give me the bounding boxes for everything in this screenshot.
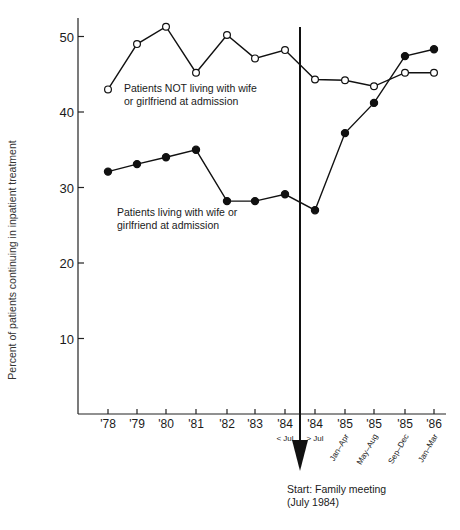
x-tick-sublabel: > Jul: [306, 434, 323, 443]
filled-circle-marker: [281, 191, 288, 198]
filled-circle-marker: [430, 46, 437, 53]
open-circle-marker: [134, 41, 141, 48]
filled-circle-marker: [401, 53, 408, 60]
open-circle-marker: [252, 55, 259, 62]
x-tick-label: '85: [337, 417, 353, 431]
x-tick-sublabel: Jan–Apr: [328, 432, 351, 463]
open-circle-marker: [163, 23, 170, 30]
annotation-not-living-with-partner: or girlfriend at admission: [124, 95, 239, 107]
open-circle-marker: [431, 69, 438, 76]
annotation-family-meeting: Start: Family meeting: [287, 483, 386, 495]
x-tick-sublabel: < Jul: [276, 434, 293, 443]
open-circle-marker: [342, 77, 349, 84]
open-circle-marker: [224, 32, 231, 39]
x-tick-label: '85: [366, 417, 382, 431]
series-living-with-partner: [104, 46, 437, 214]
annotation-not-living-with-partner: Patients NOT living with wife: [124, 82, 257, 94]
y-tick-label: 30: [60, 181, 74, 196]
x-tick-label: '80: [158, 417, 174, 431]
y-tick-label: 50: [60, 30, 74, 45]
open-circle-marker: [402, 69, 409, 76]
filled-circle-marker: [311, 207, 318, 214]
data-series: [104, 23, 437, 213]
x-tick-label: '86: [426, 417, 442, 431]
filled-circle-marker: [162, 154, 169, 161]
x-tick-label: '79: [129, 417, 145, 431]
filled-circle-marker: [104, 168, 111, 175]
open-circle-marker: [282, 47, 289, 54]
filled-circle-marker: [223, 198, 230, 205]
x-axis-ticks: '78'79'80'81'82'83'84< Jul'84> Jul'85Jan…: [100, 409, 442, 466]
filled-circle-marker: [192, 146, 199, 153]
filled-circle-marker: [251, 198, 258, 205]
x-tick-label: '82: [219, 417, 235, 431]
open-circle-marker: [371, 83, 378, 90]
y-tick-label: 10: [60, 332, 74, 347]
x-tick-sublabel: Sep–Dec: [386, 433, 410, 466]
annotation-family-meeting: (July 1984): [287, 496, 339, 508]
y-tick-label: 40: [60, 105, 74, 120]
open-circle-marker: [193, 69, 200, 76]
x-tick-label: '84: [277, 417, 293, 431]
y-axis-ticks: 1020304050: [60, 30, 84, 347]
x-tick-label: '85: [397, 417, 413, 431]
y-axis-label: Percent of patients continuing in inpati…: [6, 140, 18, 379]
x-tick-sublabel: May–Aug: [355, 433, 380, 467]
open-circle-marker: [105, 86, 112, 93]
family-meeting-arrow: [292, 27, 308, 471]
filled-circle-marker: [341, 130, 348, 137]
line-chart: Percent of patients continuing in inpati…: [0, 0, 460, 530]
annotation-living-with-partner: Patients living with wife or: [117, 206, 238, 218]
y-tick-label: 20: [60, 256, 74, 271]
x-tick-sublabel: Jan–Mar: [416, 432, 440, 464]
x-tick-label: '84: [307, 417, 323, 431]
filled-circle-marker: [133, 161, 140, 168]
x-tick-label: '81: [188, 417, 204, 431]
annotation-living-with-partner: girlfriend at admission: [117, 219, 219, 231]
x-tick-label: '83: [247, 417, 263, 431]
x-tick-label: '78: [100, 417, 116, 431]
filled-circle-marker: [370, 99, 377, 106]
open-circle-marker: [312, 76, 319, 83]
y-axis-title: Percent of patients continuing in inpati…: [6, 140, 18, 379]
arrow-down-icon: [292, 440, 308, 471]
